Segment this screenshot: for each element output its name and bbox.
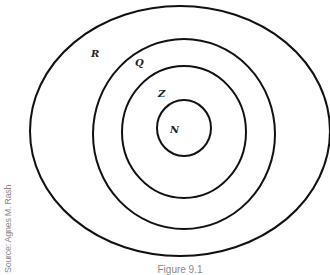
figure-caption: Figure 9.1 <box>150 264 210 275</box>
ring-n <box>157 100 211 156</box>
label-n: N <box>169 124 180 135</box>
label-r: R <box>90 48 99 59</box>
ring-r <box>30 6 330 256</box>
source-credit: Source: Agnes M. Rash <box>3 173 13 273</box>
label-z: Z <box>157 88 166 99</box>
label-q: Q <box>135 57 144 68</box>
ring-q <box>93 39 275 229</box>
ring-z <box>122 66 246 198</box>
